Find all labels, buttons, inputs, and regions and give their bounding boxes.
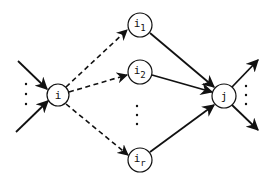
edge-j-to-out-bottom xyxy=(232,105,258,130)
node-ir: i r xyxy=(128,148,152,172)
right-vertical-dots xyxy=(245,85,247,105)
edge-j-to-out-top xyxy=(232,60,258,87)
node-i1: i 1 xyxy=(128,13,152,37)
node-i2-subscript: 2 xyxy=(140,70,145,80)
node-j: j xyxy=(212,84,236,108)
edge-i-to-i1 xyxy=(66,30,127,87)
node-i2: i 2 xyxy=(128,60,152,84)
middle-vertical-dots xyxy=(136,105,138,125)
edge-i-to-i2 xyxy=(69,75,127,92)
edge-in-top-to-i xyxy=(18,61,47,89)
flow-diagram: i i 1 i 2 i r j xyxy=(0,0,272,188)
edge-i1-to-j xyxy=(150,33,214,87)
node-i1-subscript: 1 xyxy=(140,23,145,33)
node-j-label: j xyxy=(221,90,228,103)
node-i-label: i xyxy=(55,89,62,102)
node-i: i xyxy=(47,84,69,106)
left-vertical-dots xyxy=(25,83,27,105)
edge-in-bottom-to-i xyxy=(16,101,48,132)
edge-ir-to-j xyxy=(150,105,214,152)
edge-i-to-ir xyxy=(66,104,128,155)
node-ir-subscript: r xyxy=(140,158,146,168)
